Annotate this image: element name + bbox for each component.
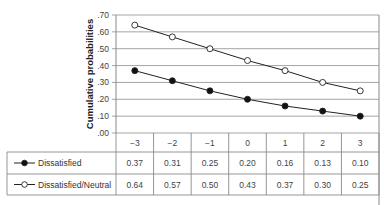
- table-cell: 0.50: [202, 180, 219, 190]
- y-tick-label: .40: [97, 61, 109, 71]
- table-cell: 0.13: [314, 158, 331, 168]
- y-tick-label: .10: [97, 111, 109, 121]
- filled-circle-marker: [357, 113, 363, 119]
- y-axis-title: Cumulative probabilities: [84, 19, 95, 129]
- table-cell: 0.25: [352, 180, 369, 190]
- table-header-cell: 2: [320, 138, 325, 148]
- legend-label: Dissatisfied: [38, 158, 82, 168]
- y-tick-label: .70: [97, 10, 109, 20]
- table-cell: 0.20: [239, 158, 256, 168]
- filled-circle-marker: [245, 96, 251, 102]
- table-header-cell: −3: [130, 138, 140, 148]
- table-cell: 0.30: [314, 180, 331, 190]
- table-cell: 0.64: [127, 180, 144, 190]
- y-tick-label: .30: [97, 77, 109, 87]
- y-tick-label: .00: [97, 128, 109, 138]
- data-table: −3−2−10123Dissatisfied0.370.310.250.200.…: [7, 133, 379, 195]
- table-header-cell: −1: [205, 138, 215, 148]
- table-header-cell: 1: [283, 138, 288, 148]
- legend-filled-circle-icon: [22, 160, 28, 166]
- open-circle-marker: [132, 22, 138, 28]
- filled-circle-marker: [169, 78, 175, 84]
- open-circle-marker: [357, 88, 363, 94]
- table-cell: 0.31: [164, 158, 181, 168]
- table-cell: 0.16: [277, 158, 294, 168]
- table-header-cell: 3: [358, 138, 363, 148]
- table-cell: 0.37: [127, 158, 144, 168]
- y-tick-label: .20: [97, 94, 109, 104]
- open-circle-marker: [320, 79, 326, 85]
- table-cell: 0.43: [239, 180, 256, 190]
- series-line-0: [135, 71, 360, 117]
- legend-open-circle-icon: [22, 182, 28, 188]
- y-axis-tick-labels: .00.10.20.30.40.50.60.70: [97, 10, 109, 138]
- y-tick-label: .60: [97, 27, 109, 37]
- filled-circle-marker: [320, 108, 326, 114]
- filled-circle-marker: [132, 68, 138, 74]
- cumulative-probabilities-chart: .00.10.20.30.40.50.60.70 Cumulative prob…: [0, 0, 384, 205]
- table-cell: 0.57: [164, 180, 181, 190]
- table-cell: 0.25: [202, 158, 219, 168]
- y-tick-label: .50: [97, 44, 109, 54]
- open-circle-marker: [282, 68, 288, 74]
- gridlines: [112, 15, 379, 205]
- open-circle-marker: [245, 58, 251, 64]
- open-circle-marker: [169, 34, 175, 40]
- table-header-cell: 0: [245, 138, 250, 148]
- table-cell: 0.37: [277, 180, 294, 190]
- open-circle-marker: [207, 46, 213, 52]
- filled-circle-marker: [282, 103, 288, 109]
- plot-area: [132, 22, 363, 119]
- legend-label: Dissatisfied/Neutral: [38, 180, 111, 190]
- table-cell: 0.10: [352, 158, 369, 168]
- table-header-cell: −2: [168, 138, 178, 148]
- filled-circle-marker: [207, 88, 213, 94]
